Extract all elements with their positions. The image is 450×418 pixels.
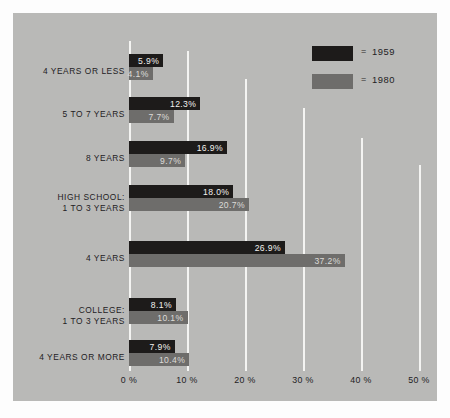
legend-equals-1959: = bbox=[361, 46, 366, 56]
gridline-50pct bbox=[419, 165, 421, 371]
bar-1959: 8.1% bbox=[129, 298, 176, 311]
bar-value-label: 26.9% bbox=[255, 243, 285, 253]
legend-equals-1980: = bbox=[361, 74, 366, 84]
bar-1959: 5.9% bbox=[129, 54, 163, 67]
category-label: HIGH SCHOOL: 1 TO 3 YEARS bbox=[13, 192, 125, 213]
bar-1959: 7.9% bbox=[129, 340, 175, 353]
bar-value-label: 10.1% bbox=[157, 313, 187, 323]
bar-value-label: 10.4% bbox=[159, 355, 189, 365]
x-tick-30pct: 30 % bbox=[280, 375, 326, 385]
x-tick-40pct: 40 % bbox=[338, 375, 384, 385]
bar-1980: 10.1% bbox=[129, 311, 188, 324]
bar-value-label: 7.7% bbox=[148, 112, 173, 122]
x-tick-20pct: 20 % bbox=[222, 375, 268, 385]
bar-value-label: 5.9% bbox=[138, 56, 163, 66]
bar-1980: 7.7% bbox=[129, 110, 174, 123]
bar-value-label: 4.1% bbox=[128, 69, 153, 79]
bar-value-label: 7.9% bbox=[150, 342, 175, 352]
bar-value-label: 9.7% bbox=[160, 156, 185, 166]
bar-1959: 12.3% bbox=[129, 97, 200, 110]
bar-1980: 10.4% bbox=[129, 353, 189, 366]
bar-1959: 16.9% bbox=[129, 141, 227, 154]
x-tick-50pct: 50 % bbox=[396, 375, 437, 385]
gridline-20pct bbox=[245, 79, 247, 371]
legend-label-1980: 1980 bbox=[372, 74, 395, 85]
category-label: 8 YEARS bbox=[13, 153, 125, 164]
legend-label-1959: 1959 bbox=[372, 46, 395, 57]
x-tick-10pct: 10 % bbox=[164, 375, 210, 385]
bar-1959: 18.0% bbox=[129, 185, 233, 198]
chart-panel: 4 YEARS OR LESS5.9%4.1%5 TO 7 YEARS12.3%… bbox=[13, 13, 437, 401]
gridline-40pct bbox=[361, 138, 363, 371]
category-label: 4 YEARS bbox=[13, 253, 125, 264]
bar-1959: 26.9% bbox=[129, 241, 285, 254]
category-label: COLLEGE: 1 TO 3 YEARS bbox=[13, 305, 125, 326]
category-label: 4 YEARS OR LESS bbox=[13, 66, 125, 77]
gridline-30pct bbox=[303, 108, 305, 371]
category-label: 5 TO 7 YEARS bbox=[13, 109, 125, 120]
legend-swatch-1980 bbox=[312, 74, 353, 89]
bar-value-label: 37.2% bbox=[314, 256, 344, 266]
bar-1980: 4.1% bbox=[129, 67, 153, 80]
x-tick-0pct: 0 % bbox=[106, 375, 152, 385]
category-label: 4 YEARS OR MORE bbox=[13, 352, 125, 363]
bar-1980: 9.7% bbox=[129, 154, 185, 167]
bar-1980: 37.2% bbox=[129, 254, 345, 267]
bar-value-label: 20.7% bbox=[219, 200, 249, 210]
bar-value-label: 16.9% bbox=[197, 143, 227, 153]
bar-value-label: 18.0% bbox=[203, 187, 233, 197]
bar-1980: 20.7% bbox=[129, 198, 249, 211]
bar-value-label: 8.1% bbox=[151, 300, 176, 310]
legend-swatch-1959 bbox=[312, 46, 353, 61]
bar-value-label: 12.3% bbox=[170, 99, 200, 109]
